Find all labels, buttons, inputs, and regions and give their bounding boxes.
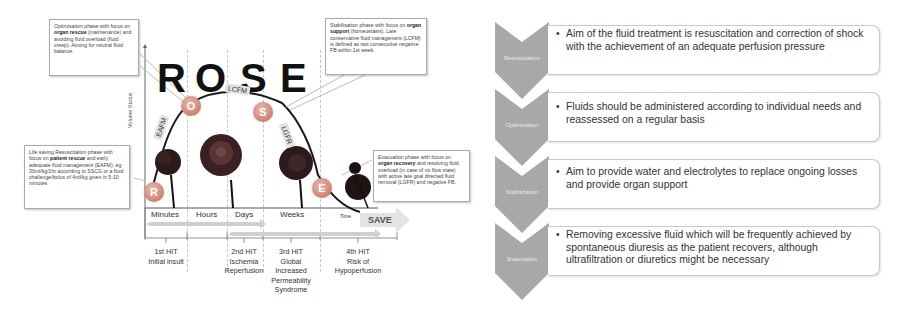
phase-list: Resuscitation Optimisation Stabilization… xyxy=(470,0,913,311)
chevron-label-evacuation: Evacuation xyxy=(495,256,549,262)
time-label-hours: Hours xyxy=(196,210,217,219)
phase-circle-r: R xyxy=(144,182,164,202)
rose-letter-e: E xyxy=(280,58,307,98)
rose-image-2 xyxy=(200,134,242,208)
hit-4-line: Risk of xyxy=(323,257,393,267)
time-label-minutes: Minutes xyxy=(151,210,179,219)
hit-3-line: Increased xyxy=(256,266,326,276)
x-axis-time-label: Time xyxy=(340,213,351,219)
chevron-stack xyxy=(495,22,550,307)
callout-optimisation: Optimisation phase with focus on organ r… xyxy=(49,19,139,76)
rose-letter-o: O xyxy=(195,58,226,98)
chevron-label-resuscitation: Resuscitation xyxy=(495,55,549,61)
hit-4-title: 4th HIT xyxy=(323,247,393,257)
bullet-icon: • xyxy=(556,28,560,41)
bullet-icon: • xyxy=(556,166,560,179)
phase-description-resuscitation: • Aim of the fluid treatment is resuscit… xyxy=(548,25,880,75)
rose-image-3 xyxy=(279,146,313,208)
chevron-label-stabilization: Stabilization xyxy=(495,189,549,195)
phase-circle-s: S xyxy=(253,102,273,122)
bullet-icon: • xyxy=(556,101,560,114)
time-label-weeks: Weeks xyxy=(280,210,304,219)
hit-1-line: Initial insult xyxy=(131,257,201,267)
chevron-label-optimisation: Optimisation xyxy=(495,122,549,128)
callout-stabilisation: Stabilisation phase with focus on organ … xyxy=(325,18,427,75)
phase-description-stabilization: • Aim to provide water and electrolytes … xyxy=(548,159,880,209)
rose-image-4 xyxy=(345,162,371,208)
phase-description-optimisation: • Fluids should be administered accordin… xyxy=(548,92,880,142)
hit-1-title: 1st HIT xyxy=(131,247,201,257)
bullet-icon: • xyxy=(556,229,560,242)
hit-3-line: Syndrome xyxy=(256,285,326,295)
hit-4: 4th HIT Risk of Hypoperfusion xyxy=(323,247,393,276)
phase-circle-o: O xyxy=(181,96,201,116)
y-axis-label: Volume Status xyxy=(127,93,133,128)
hit-3-line: Permeability xyxy=(256,276,326,286)
save-label: SAVE xyxy=(368,215,392,225)
hit-3: 3rd HIT Global Increased Permeability Sy… xyxy=(256,247,326,295)
hit-3-line: Global xyxy=(256,257,326,267)
callout-evacuation: Evacuation phase with focus on organ rec… xyxy=(373,150,470,202)
phase-description-evacuation: • Removing excessive fluid which will be… xyxy=(548,226,880,276)
rose-letter-r: R xyxy=(157,58,186,98)
hit-3-title: 3rd HIT xyxy=(256,247,326,257)
rose-diagram: Volume Status R O S E EAFM LCFM LGFR R O… xyxy=(0,0,470,311)
hit-4-line: Hypoperfusion xyxy=(323,266,393,276)
callout-resuscitation: Life saving Resuscitation phase with foc… xyxy=(24,145,130,209)
hit-1: 1st HIT Initial insult xyxy=(131,247,201,266)
time-label-days: Days xyxy=(235,210,253,219)
phase-circle-e: E xyxy=(312,178,332,198)
